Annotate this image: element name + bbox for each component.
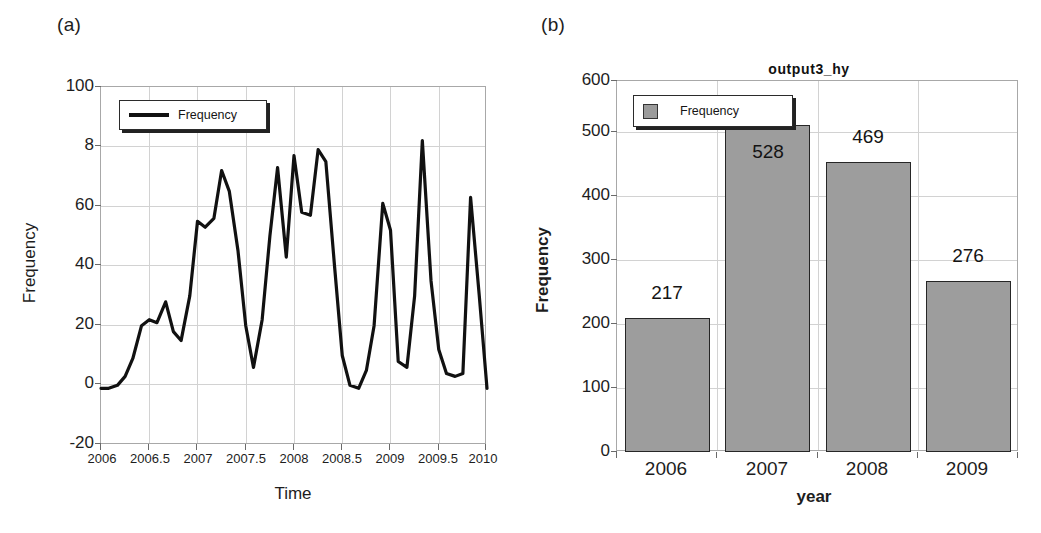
panel-b-xtick-mark-3	[917, 452, 918, 458]
panel-b-bar-chart: (b) output3_hy Frequency 0 100 200 300 4…	[521, 0, 1041, 533]
panel-a-x-tick-1: 2006.5	[130, 451, 170, 466]
panel-a-x-tick-4: 2008	[280, 451, 309, 466]
panel-b-y-tick-3: 300	[555, 249, 610, 269]
panel-a-y-tick-5: 8	[46, 135, 94, 155]
figure-panels: (a) Frequency -20 0 20 40 60 8 100	[0, 0, 1041, 533]
panel-a-x-tick-3: 2007.5	[226, 451, 266, 466]
panel-a-ytick-mark-4	[95, 205, 101, 206]
panel-b-ytick-mark-4	[611, 195, 617, 196]
panel-a-plot-area: Frequency	[100, 86, 486, 444]
panel-a-xtick-mark-5	[341, 444, 342, 450]
panel-b-plot-area: 217 528 469 276 Frequency	[616, 80, 1018, 451]
panel-a-xtick-mark-8	[485, 444, 486, 450]
panel-b-y-tick-6: 600	[555, 70, 610, 90]
panel-a-series-frequency	[101, 87, 487, 445]
panel-b-legend-label: Frequency	[680, 104, 739, 118]
panel-a-ytick-mark-5	[95, 145, 101, 146]
bar-value-2006: 217	[651, 282, 683, 304]
panel-b-ytick-mark-6	[611, 80, 617, 81]
panel-b-y-axis-title: Frequency	[533, 227, 553, 313]
panel-b-x-tick-1: 2007	[746, 458, 788, 480]
panel-a-y-tick-0: -20	[46, 433, 94, 453]
panel-a-xtick-mark-1	[148, 444, 149, 450]
panel-b-x-tick-3: 2009	[946, 458, 988, 480]
legend-square-icon	[643, 104, 658, 119]
bar-value-2009: 276	[952, 245, 984, 267]
panel-a-y-tick-3: 40	[46, 254, 94, 274]
panel-a-x-axis-title: Time	[274, 484, 311, 504]
legend-line-icon	[129, 113, 169, 117]
panel-b-xtick-mark-4	[1017, 452, 1018, 458]
panel-b-gridline-cat-2	[818, 81, 819, 450]
panel-b-ytick-mark-3	[611, 259, 617, 260]
panel-a-xtick-mark-7	[438, 444, 439, 450]
panel-a-ytick-mark-3	[95, 264, 101, 265]
panel-b-y-tick-0: 0	[555, 441, 610, 461]
panel-a-xtick-mark-0	[100, 444, 101, 450]
bar-2008[interactable]	[826, 162, 911, 452]
panel-a-x-tick-6: 2009	[376, 451, 405, 466]
panel-b-y-tick-1: 100	[555, 377, 610, 397]
panel-a-x-tick-7: 2009.5	[418, 451, 458, 466]
panel-b-y-tick-2: 200	[555, 313, 610, 333]
panel-b-xtick-mark-1	[716, 452, 717, 458]
panel-a-ytick-mark-6	[95, 86, 101, 87]
panel-b-ytick-mark-1	[611, 387, 617, 388]
panel-a-y-tick-1: 0	[46, 373, 94, 393]
panel-a-y-axis-title: Frequency	[20, 223, 40, 303]
panel-a-tag: (a)	[57, 14, 81, 36]
panel-a-x-tick-8: 2010	[469, 451, 498, 466]
panel-b-y-tick-5: 500	[555, 121, 610, 141]
panel-b-legend[interactable]: Frequency	[633, 95, 793, 127]
panel-b-chart-title: output3_hy	[768, 61, 849, 77]
panel-b-gridline-cat-3	[918, 81, 919, 450]
panel-b-y-tick-4: 400	[555, 185, 610, 205]
panel-a-xtick-mark-6	[389, 444, 390, 450]
panel-b-ytick-mark-2	[611, 323, 617, 324]
panel-a-y-tick-4: 60	[46, 195, 94, 215]
panel-a-ytick-mark-2	[95, 324, 101, 325]
panel-a-xtick-mark-3	[245, 444, 246, 450]
bar-2009[interactable]	[926, 281, 1011, 452]
panel-b-xtick-mark-0	[616, 452, 617, 458]
panel-a-x-tick-2: 2007	[184, 451, 213, 466]
bar-2006[interactable]	[625, 318, 710, 452]
panel-a-ytick-mark-1	[95, 383, 101, 384]
panel-b-gridline-cat-1	[717, 81, 718, 450]
panel-a-x-tick-0: 2006	[88, 451, 117, 466]
panel-a-line-chart: (a) Frequency -20 0 20 40 60 8 100	[0, 0, 520, 533]
panel-b-ytick-mark-5	[611, 131, 617, 132]
bar-2007[interactable]	[725, 125, 810, 452]
panel-a-y-tick-6: 100	[46, 76, 94, 96]
panel-b-gridline-500	[617, 132, 1017, 133]
panel-a-xtick-mark-4	[293, 444, 294, 450]
panel-b-x-tick-0: 2006	[645, 458, 687, 480]
panel-a-y-tick-2: 20	[46, 314, 94, 334]
bar-value-2008: 469	[852, 126, 884, 148]
panel-b-tag: (b)	[541, 14, 565, 36]
panel-a-xtick-mark-2	[196, 444, 197, 450]
panel-b-xtick-mark-2	[817, 452, 818, 458]
panel-a-legend-label: Frequency	[178, 108, 237, 122]
panel-b-x-axis-title: year	[797, 487, 832, 507]
panel-a-legend[interactable]: Frequency	[119, 100, 267, 130]
panel-a-x-tick-5: 2008.5	[322, 451, 362, 466]
panel-b-gridline-400	[617, 196, 1017, 197]
bar-value-2007: 528	[752, 141, 784, 163]
panel-b-x-tick-2: 2008	[846, 458, 888, 480]
